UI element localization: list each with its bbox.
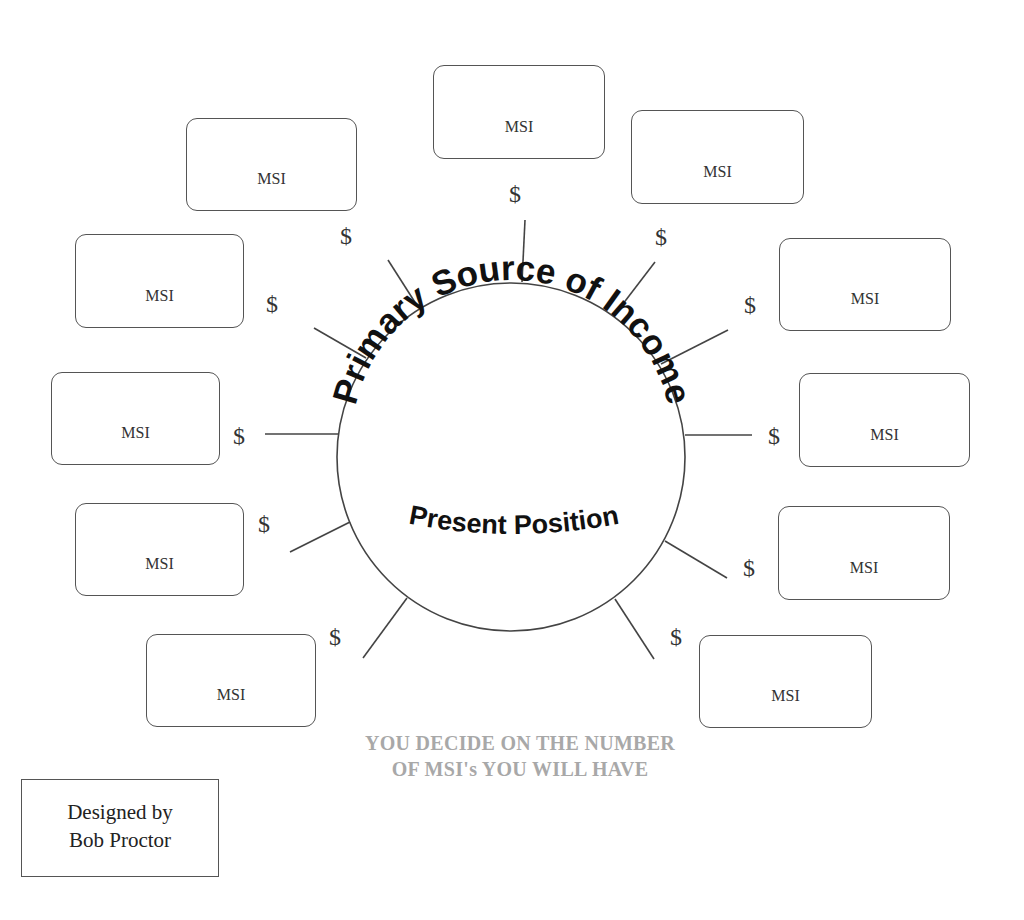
msi-label: MSI: [703, 163, 731, 181]
msi-box: MSI: [778, 506, 950, 600]
primary-source-title: Primary Source of Income: [325, 248, 700, 408]
msi-label: MSI: [121, 424, 149, 442]
connector-line: [665, 541, 727, 578]
msi-box: MSI: [146, 634, 316, 727]
connector-line: [363, 598, 407, 658]
dollar-sign-icon: $: [340, 224, 352, 248]
dollar-sign-icon: $: [258, 512, 270, 536]
dollar-sign-icon: $: [743, 556, 755, 580]
msi-label: MSI: [850, 559, 878, 577]
instruction-note: YOU DECIDE ON THE NUMBER OF MSI's YOU WI…: [300, 730, 740, 782]
msi-box: MSI: [433, 65, 605, 159]
msi-box: MSI: [75, 234, 244, 328]
instruction-line-1: YOU DECIDE ON THE NUMBER: [300, 730, 740, 756]
connector-line: [615, 599, 654, 659]
msi-box: MSI: [186, 118, 357, 211]
dollar-sign-icon: $: [509, 182, 521, 206]
msi-label: MSI: [870, 426, 898, 444]
msi-label: MSI: [505, 118, 533, 136]
msi-box: MSI: [699, 635, 872, 728]
msi-label: MSI: [851, 290, 879, 308]
dollar-sign-icon: $: [266, 292, 278, 316]
dollar-sign-icon: $: [768, 424, 780, 448]
credit-line-2: Bob Proctor: [69, 826, 171, 854]
msi-box: MSI: [779, 238, 951, 331]
msi-label: MSI: [217, 686, 245, 704]
msi-box: MSI: [75, 503, 244, 596]
credit-box: Designed by Bob Proctor: [21, 779, 219, 877]
dollar-sign-icon: $: [670, 625, 682, 649]
dollar-sign-icon: $: [655, 225, 667, 249]
msi-label: MSI: [257, 170, 285, 188]
msi-label: MSI: [145, 287, 173, 305]
msi-box: MSI: [799, 373, 970, 467]
connector-line: [290, 522, 350, 552]
msi-label: MSI: [145, 555, 173, 573]
msi-box: MSI: [51, 372, 220, 465]
dollar-sign-icon: $: [744, 293, 756, 317]
msi-box: MSI: [631, 110, 804, 204]
credit-line-1: Designed by: [67, 798, 173, 826]
msi-label: MSI: [771, 687, 799, 705]
dollar-sign-icon: $: [329, 625, 341, 649]
present-position-label: Present Position: [407, 500, 621, 540]
dollar-sign-icon: $: [233, 424, 245, 448]
instruction-line-2: OF MSI's YOU WILL HAVE: [300, 756, 740, 782]
